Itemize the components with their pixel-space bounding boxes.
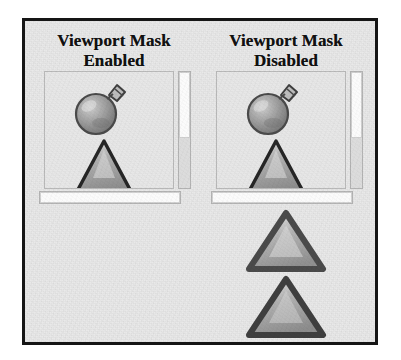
panel-title-enabled-line1: Viewport Mask [57, 31, 171, 50]
viewport-mask-figure: Viewport Mask Enabled [0, 0, 401, 360]
horizontal-scrollbar-thumb[interactable] [40, 192, 180, 203]
bomb-sprite [71, 81, 129, 137]
panel-title-enabled: Viewport Mask Enabled [25, 31, 203, 71]
panel-title-enabled-line2: Enabled [25, 51, 203, 71]
viewport-clip-disabled [217, 72, 345, 188]
panel-title-disabled: Viewport Mask Disabled [197, 31, 375, 71]
horizontal-scrollbar[interactable] [211, 191, 353, 204]
panel-title-disabled-line1: Viewport Mask [229, 31, 343, 50]
overflow-triangle-2 [243, 273, 329, 341]
horizontal-scrollbar[interactable] [39, 191, 181, 204]
bomb-sprite [243, 81, 301, 137]
figure-frame: Viewport Mask Enabled [22, 18, 378, 345]
triangle-sprite [71, 138, 137, 188]
vertical-scrollbar[interactable] [350, 71, 363, 189]
panel-viewport-mask-enabled: Viewport Mask Enabled [25, 21, 203, 342]
viewport-window-disabled[interactable] [216, 71, 346, 189]
viewport-window-enabled[interactable] [44, 71, 174, 189]
vertical-scrollbar-thumb[interactable] [179, 72, 190, 138]
vertical-scrollbar-thumb[interactable] [351, 72, 362, 138]
panel-viewport-mask-disabled: Viewport Mask Disabled [197, 21, 375, 342]
horizontal-scrollbar-thumb[interactable] [212, 192, 352, 203]
panel-title-disabled-line2: Disabled [197, 51, 375, 71]
viewport-clip-enabled [45, 72, 173, 188]
vertical-scrollbar[interactable] [178, 71, 191, 189]
overflow-triangle-1 [243, 207, 329, 275]
triangle-sprite [243, 138, 309, 188]
